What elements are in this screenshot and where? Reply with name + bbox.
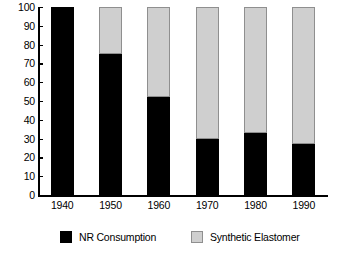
y-axis-tick-label: 70	[9, 58, 35, 69]
y-axis-tick-label: 30	[9, 134, 35, 145]
y-axis-tick	[38, 120, 43, 121]
y-axis-tick	[38, 45, 43, 46]
y-axis-tick	[38, 63, 43, 64]
y-axis-tick	[38, 157, 43, 158]
legend-label-nr-consumption: NR Consumption	[79, 232, 156, 243]
bar-group[interactable]	[244, 7, 267, 195]
bar-group[interactable]	[196, 7, 219, 195]
y-axis-tick	[38, 195, 43, 196]
y-axis-tick	[38, 139, 43, 140]
y-axis-tick-label: 10	[9, 171, 35, 182]
bar-group[interactable]	[99, 7, 122, 195]
bar-segment-synthetic-elastomer[interactable]	[99, 7, 122, 54]
x-axis-line	[38, 195, 328, 197]
y-axis-tick	[38, 7, 43, 8]
bar-segment-nr-consumption[interactable]	[244, 133, 267, 195]
x-axis-tick-label: 1980	[232, 200, 280, 211]
stacked-bar-chart: 0102030405060708090100 19401950196019701…	[0, 0, 348, 260]
y-axis-tick-label: 0	[9, 190, 35, 201]
y-axis-tick-label: 100	[9, 2, 35, 13]
y-axis-tick-label: 40	[9, 115, 35, 126]
y-axis-tick-label: 50	[9, 96, 35, 107]
bar-group[interactable]	[292, 7, 315, 195]
legend-entry-nr-consumption: NR Consumption	[60, 229, 156, 245]
bar-segment-nr-consumption[interactable]	[147, 97, 170, 195]
y-axis-tick	[38, 26, 43, 27]
bar-segment-synthetic-elastomer[interactable]	[196, 7, 219, 139]
legend-entry-synthetic-elastomer: Synthetic Elastomer	[191, 229, 300, 245]
plot-area	[38, 7, 328, 196]
x-axis-tick-label: 1970	[183, 200, 231, 211]
y-axis-tick-label: 90	[9, 21, 35, 32]
black-square-swatch-icon	[60, 231, 72, 243]
x-axis-tick-label: 1940	[38, 200, 86, 211]
y-axis-tick	[38, 176, 43, 177]
bar-segment-synthetic-elastomer[interactable]	[147, 7, 170, 97]
bar-segment-nr-consumption[interactable]	[51, 7, 74, 195]
bar-segment-nr-consumption[interactable]	[292, 144, 315, 195]
y-axis-tick-label: 60	[9, 77, 35, 88]
gray-square-swatch-icon	[191, 231, 203, 243]
legend-label-synthetic-elastomer: Synthetic Elastomer	[210, 232, 300, 243]
x-axis-tick-label: 1950	[87, 200, 135, 211]
bar-segment-nr-consumption[interactable]	[196, 139, 219, 195]
x-axis-tick-label: 1990	[280, 200, 328, 211]
bar-segment-synthetic-elastomer[interactable]	[244, 7, 267, 133]
y-axis-tick-label: 80	[9, 40, 35, 51]
bar-segment-synthetic-elastomer[interactable]	[292, 7, 315, 144]
y-axis-tick-label: 20	[9, 152, 35, 163]
bar-group[interactable]	[147, 7, 170, 195]
x-axis-tick-label: 1960	[135, 200, 183, 211]
bar-group[interactable]	[51, 7, 74, 195]
chart-legend: NR Consumption Synthetic Elastomer	[0, 229, 348, 249]
bar-segment-nr-consumption[interactable]	[99, 54, 122, 195]
y-axis-tick	[38, 101, 43, 102]
y-axis-tick	[38, 82, 43, 83]
